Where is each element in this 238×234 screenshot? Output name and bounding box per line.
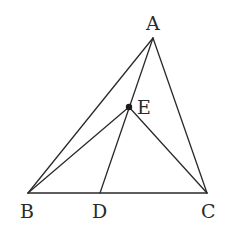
label-e: E: [137, 96, 151, 118]
segment-ce: [129, 107, 207, 193]
segment-ac: [153, 38, 207, 193]
marked-points: [126, 104, 132, 110]
segments: [28, 38, 207, 193]
label-a: A: [145, 12, 160, 34]
point-e-dot: [126, 104, 132, 110]
label-b: B: [20, 200, 34, 222]
label-d: D: [92, 200, 107, 222]
segment-be: [28, 107, 129, 193]
triangle-diagram: A B C D E: [0, 0, 238, 234]
segment-ab: [28, 38, 153, 193]
label-c: C: [201, 200, 216, 222]
